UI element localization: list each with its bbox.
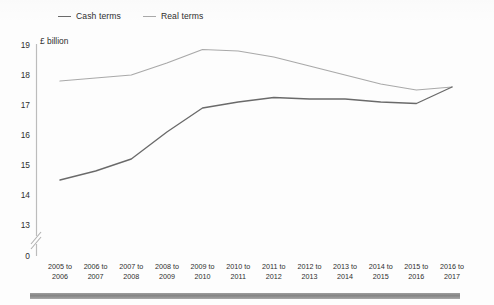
plot-area [0,0,494,305]
y-tick-label-17: 17 [8,100,30,110]
y-tick-label-15: 15 [8,160,30,170]
y-tick-label-19: 19 [8,40,30,50]
y-tick-label-18: 18 [8,70,30,80]
y-tick-label-13: 13 [8,220,30,230]
x-tick-label-2016-to-2017: 2016 to2017 [434,262,470,281]
x-tick-label-2010-to-2011: 2010 to2011 [220,262,256,281]
line-chart: Cash terms Real terms £ billion 19 18 17… [0,0,494,305]
y-tick-label-16: 16 [8,130,30,140]
x-tick-label-2012-to-2013: 2012 to2013 [291,262,327,281]
x-tick-label-2013-to-2014: 2013 to2014 [327,262,363,281]
scan-artifact-bar [30,293,460,299]
x-tick-label-2011-to-2012: 2011 to2012 [256,262,292,281]
x-tick-label-2006-to-2007: 2006 to2007 [78,262,114,281]
x-tick-label-2008-to-2009: 2008 to2009 [149,262,185,281]
x-tick-label-2014-to-2015: 2014 to2015 [363,262,399,281]
series-line-real-terms [60,50,452,91]
y-tick-label-14: 14 [8,190,30,200]
series-line-cash-terms [60,87,452,180]
x-tick-label-2015-to-2016: 2015 to2016 [398,262,434,281]
x-tick-label-2007-to-2008: 2007 to2008 [113,262,149,281]
x-tick-label-2009-to-2010: 2009 to2010 [185,262,221,281]
y-tick-label-0: 0 [8,251,30,261]
x-tick-label-2005-to-2006: 2005 to2006 [42,262,78,281]
